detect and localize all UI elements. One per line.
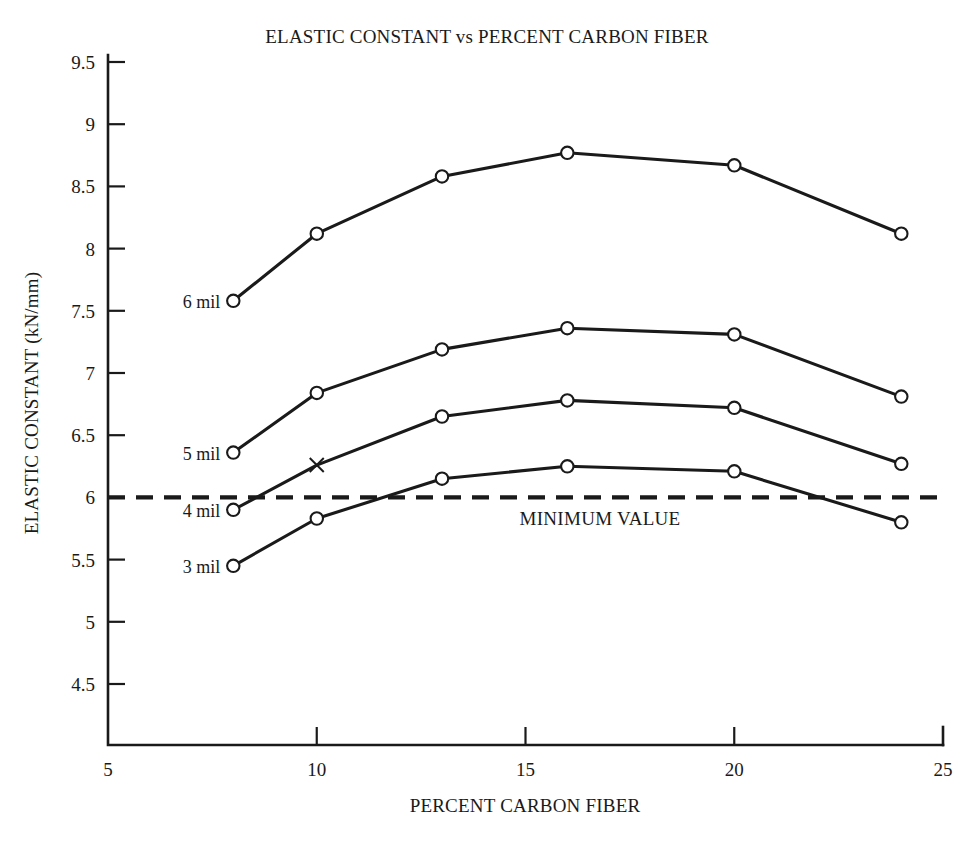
data-point-marker [436,410,448,422]
series-label-4-mil: 4 mil [183,501,221,521]
elastic-constant-line-chart: ELASTIC CONSTANT vs PERCENT CARBON FIBER… [0,0,974,847]
data-point-marker [227,295,239,307]
data-point-marker [436,473,448,485]
axis-lines [108,55,943,745]
data-point-marker [561,147,573,159]
series-line [233,400,901,509]
data-point-marker [895,516,907,528]
x-axis-title: PERCENT CARBON FIBER [410,795,641,816]
series-5-mil [227,322,907,459]
data-point-marker [436,343,448,355]
y-tick-label: 7.5 [71,301,95,322]
y-tick-label: 9 [86,114,96,135]
series-labels-group: 6 mil5 mil4 mil3 mil [183,292,221,577]
series-label-6-mil: 6 mil [183,292,221,312]
y-tick-label: 5 [86,612,96,633]
data-point-marker [436,170,448,182]
y-tick-label: 9.5 [71,52,95,73]
data-point-marker [728,328,740,340]
x-tick-label: 20 [725,759,744,780]
y-tick-label: 6.5 [71,425,95,446]
data-point-marker [227,446,239,458]
series-label-5-mil: 5 mil [183,444,221,464]
data-point-marker [728,402,740,414]
y-tick-label: 5.5 [71,550,95,571]
x-tick-label: 15 [516,759,535,780]
x-tick-label: 25 [934,759,953,780]
data-point-marker [311,512,323,524]
y-tick-label: 8 [86,239,96,260]
axes [108,55,943,745]
y-axis-ticks: 4.555.566.577.588.599.5 [71,52,125,695]
series-6-mil [227,147,907,307]
data-point-marker [728,465,740,477]
data-point-marker [227,504,239,516]
x-tick-label: 10 [307,759,326,780]
data-point-marker [895,228,907,240]
data-point-marker [561,460,573,472]
x-axis-ticks: 510152025 [103,727,952,780]
x-tick-label: 5 [103,759,113,780]
data-point-marker [561,322,573,334]
data-point-marker [311,228,323,240]
threshold-annotation-label: MINIMUM VALUE [519,508,680,529]
data-point-marker [561,394,573,406]
y-axis-title: ELASTIC CONSTANT (kN/mm) [21,272,43,535]
y-tick-label: 4.5 [71,674,95,695]
data-point-marker [728,159,740,171]
data-point-marker [895,458,907,470]
series-line [233,153,901,301]
y-tick-label: 7 [86,363,96,384]
data-point-marker [311,387,323,399]
chart-container: ELASTIC CONSTANT vs PERCENT CARBON FIBER… [0,0,974,847]
y-tick-label: 6 [86,487,96,508]
data-point-marker [895,390,907,402]
series-label-3-mil: 3 mil [183,557,221,577]
data-point-marker [227,560,239,572]
series-line [233,328,901,452]
chart-title: ELASTIC CONSTANT vs PERCENT CARBON FIBER [265,26,708,47]
y-tick-label: 8.5 [71,176,95,197]
